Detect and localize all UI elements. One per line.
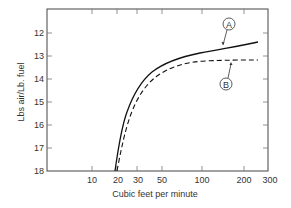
x-tick-label: 10	[87, 175, 97, 185]
svg-text:A: A	[226, 20, 232, 30]
chart: 12 13 14 15 16 17 18 10 20 30 50 100 200…	[0, 0, 291, 208]
x-tick-label: 300	[262, 175, 277, 185]
x-tick-label: 50	[157, 175, 167, 185]
plot-frame	[47, 9, 268, 171]
y-tick-label: 15	[34, 97, 44, 107]
series-a-label: A	[222, 18, 236, 45]
series-b-label: B	[220, 62, 233, 90]
x-tick-labels: 10 20 30 50 100 200 300	[87, 175, 278, 185]
svg-text:B: B	[223, 80, 229, 90]
x-axis-ticks	[92, 9, 244, 171]
y-tick-label: 12	[34, 28, 44, 38]
y-tick-label: 14	[34, 74, 44, 84]
x-tick-label: 20	[113, 175, 123, 185]
x-tick-label: 200	[236, 175, 251, 185]
y-axis-ticks	[47, 33, 268, 148]
series-a-line	[115, 42, 258, 171]
x-tick-label: 30	[133, 175, 143, 185]
x-axis-title: Cubic feet per minute	[112, 189, 198, 199]
y-tick-label: 13	[34, 51, 44, 61]
y-tick-labels: 12 13 14 15 16 17 18	[34, 28, 44, 176]
y-tick-label: 16	[34, 120, 44, 130]
series-b-line	[117, 60, 258, 171]
y-tick-label: 18	[34, 166, 44, 176]
y-tick-label: 17	[34, 143, 44, 153]
leader-line-b-icon	[228, 64, 231, 78]
y-axis-title: Lbs air/Lb. fuel	[16, 62, 26, 121]
x-tick-label: 100	[194, 175, 209, 185]
